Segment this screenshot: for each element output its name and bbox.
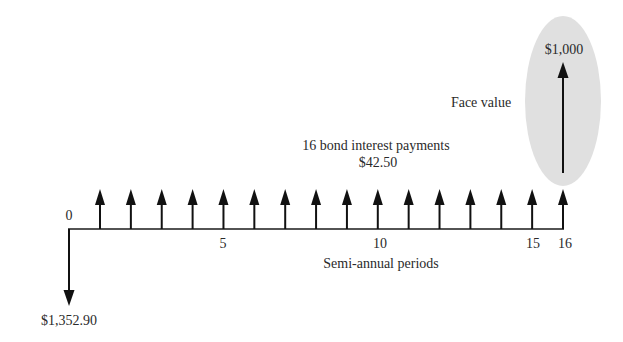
face-value-label: Face value [451, 95, 511, 110]
bond-cash-flow-diagram: 0 5 10 15 16 Semi-annual periods 16 bond… [0, 0, 623, 342]
initial-outflow-arrow-icon [64, 229, 75, 306]
payment-arrow-icon [157, 189, 167, 229]
payment-arrow-icon [218, 189, 228, 229]
payment-arrow-icon [280, 189, 290, 229]
interest-payment-amount: $42.50 [359, 155, 398, 170]
initial-outflow-amount: $1,352.90 [41, 313, 97, 328]
payment-arrow-icon [188, 189, 198, 229]
tick-label-5: 5 [220, 236, 227, 251]
payment-arrow-icon [126, 189, 136, 229]
tick-label-16: 16 [558, 236, 572, 251]
payment-arrow-icon [435, 189, 445, 229]
payment-arrow-icon [311, 189, 321, 229]
payment-arrow-icon [496, 189, 506, 229]
interest-payments-title: 16 bond interest payments [302, 138, 449, 153]
axis-title: Semi-annual periods [323, 256, 438, 271]
interest-payment-arrows [95, 189, 568, 229]
tick-label-10: 10 [373, 236, 387, 251]
payment-arrow-icon [558, 189, 568, 229]
payment-arrow-icon [373, 189, 383, 229]
payment-arrow-icon [342, 189, 352, 229]
payment-arrow-icon [249, 189, 259, 229]
payment-arrow-icon [404, 189, 414, 229]
payment-arrow-icon [527, 189, 537, 229]
origin-label: 0 [66, 208, 73, 223]
face-value-amount: $1,000 [545, 42, 584, 57]
payment-arrow-icon [465, 189, 475, 229]
payment-arrow-icon [95, 189, 105, 229]
tick-label-15: 15 [526, 236, 540, 251]
